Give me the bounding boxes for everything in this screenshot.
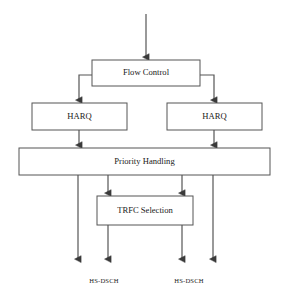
priority-handling-label: Priority Handling (114, 156, 175, 166)
trfc-selection-label: TRFC Selection (117, 205, 173, 215)
box-harq-left[interactable]: HARQ (32, 103, 127, 130)
box-harq-right[interactable]: HARQ (167, 103, 262, 130)
box-priority-handling[interactable]: Priority Handling (19, 148, 270, 175)
hs-dsch-label-right: HS-DSCH (174, 277, 203, 284)
flowchart-svg: Flow Control HARQ HARQ Priority Handling… (0, 0, 285, 297)
box-flow-control[interactable]: Flow Control (92, 60, 200, 86)
harq-left-label: HARQ (67, 111, 92, 121)
flow-control-label: Flow Control (123, 67, 170, 77)
harq-right-label: HARQ (202, 111, 227, 121)
connector-flow-control-to-harq-left (79, 75, 92, 100)
hs-dsch-label-left: HS-DSCH (89, 277, 118, 284)
diagram-canvas: Flow Control HARQ HARQ Priority Handling… (0, 0, 285, 297)
connector-flow-control-to-harq-right (200, 75, 214, 100)
box-trfc-selection[interactable]: TRFC Selection (97, 196, 193, 225)
